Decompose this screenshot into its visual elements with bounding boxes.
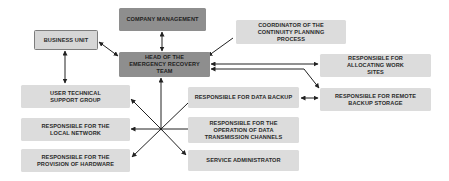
hub-node: [160, 128, 162, 130]
node-local-network: RESPONSIBLE FOR THE LOCAL NETWORK: [21, 118, 130, 141]
node-business-unit: BUSINESS UNIT: [34, 30, 98, 50]
edge-hub-databackup: [161, 103, 188, 129]
edge-hub-usersupport: [131, 99, 161, 129]
edge-hub-serviceadmin: [161, 129, 186, 155]
node-user-technical-support: USER TECHNICAL SUPPORT GROUP: [21, 85, 130, 108]
node-head-emergency-recovery: HEAD OF THE EMERGENCY RECOVERY TEAM: [119, 52, 210, 77]
edge-business-head: [99, 42, 118, 56]
node-remote-backup: RESPONSIBLE FOR REMOTE BACKUP STORAGE: [320, 88, 431, 111]
edge-coordinator-head: [208, 38, 233, 56]
node-provision-hardware: RESPONSIBLE FOR THE PROVISION OF HARDWAR…: [21, 149, 130, 172]
node-service-administrator: SERVICE ADMINISTRATOR: [188, 150, 299, 171]
node-coordinator: COORDINATOR OF THE CONTINUITY PLANNING P…: [236, 20, 346, 44]
edge-hub-hardware: [132, 129, 161, 157]
node-company-management: COMPANY MANAGEMENT: [119, 8, 206, 31]
node-data-backup: RESPONSIBLE FOR DATA BACKUP: [188, 87, 299, 108]
node-allocating-work-sites: RESPONSIBLE FOR ALLOCATING WORK SITES: [320, 54, 431, 77]
edge-head-remote-backup: [211, 69, 319, 88]
node-transmission-channels: RESPONSIBLE FOR THE OPERATION OF DATA TR…: [188, 117, 299, 143]
